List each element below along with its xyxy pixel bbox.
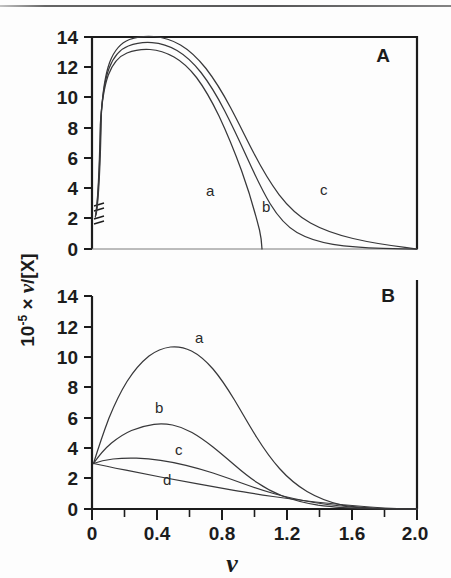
panel-a-y-ticks [84, 37, 92, 249]
panel-a-label-c: c [320, 181, 328, 198]
panel-b: 0 2 4 6 8 10 12 14 [57, 280, 428, 544]
panel-a-curve-a [95, 49, 262, 249]
x-tick-16: 1.6 [339, 523, 365, 544]
y-tick-b-2: 2 [67, 468, 78, 489]
panel-b-label-d: d [163, 471, 171, 488]
x-tick-08: 0.8 [209, 523, 235, 544]
x-tick-0: 0 [87, 523, 98, 544]
panel-b-curve-d [94, 464, 418, 510]
y-tick-b-4: 4 [67, 438, 78, 459]
x-tick-20: 2.0 [402, 523, 428, 544]
x-tick-04: 0.4 [144, 523, 171, 544]
y-tick-b-6: 6 [67, 408, 78, 429]
y-tick-b-0: 0 [67, 499, 78, 520]
panel-b-y-tick-labels: 0 2 4 6 8 10 12 14 [57, 286, 79, 520]
y-axis-base: 10 [17, 326, 38, 347]
panel-a-y-tick-labels: 0 2 4 6 8 10 12 14 [57, 27, 79, 260]
panel-a: 0 2 4 6 8 10 12 14 a b c A [57, 27, 417, 260]
panel-b-letter: B [381, 285, 395, 306]
y-tick-6: 6 [67, 148, 78, 169]
figure-container: 0 2 4 6 8 10 12 14 a b c A [0, 0, 451, 578]
panel-b-curve-a [94, 347, 418, 509]
y-tick-b-12: 12 [57, 317, 78, 338]
y-tick-12: 12 [57, 57, 78, 78]
panel-b-label-a: a [195, 329, 204, 346]
panel-b-curve-c [94, 458, 418, 509]
x-tick-12: 1.2 [274, 523, 300, 544]
y-tick-b-8: 8 [67, 377, 78, 398]
panel-b-label-c: c [175, 441, 183, 458]
panel-b-curve-b [94, 424, 418, 509]
y-tick-2: 2 [67, 208, 78, 229]
panel-a-letter: A [376, 45, 390, 66]
y-tick-4: 4 [67, 178, 78, 199]
y-tick-0: 0 [67, 239, 78, 260]
panel-a-label-a: a [206, 182, 215, 199]
panel-a-label-b: b [262, 198, 270, 215]
panel-a-frame [92, 37, 417, 249]
chart-svg: 0 2 4 6 8 10 12 14 a b c A [0, 0, 451, 578]
y-axis-title: 10-5 × ν/[X] [15, 253, 39, 346]
x-axis-title: ν [226, 549, 238, 578]
y-axis-title-group: 10-5 × ν/[X] [15, 253, 39, 346]
y-axis-times: × [17, 299, 38, 310]
y-tick-b-10: 10 [57, 347, 78, 368]
y-tick-b-14: 14 [57, 286, 79, 307]
y-tick-8: 8 [67, 118, 78, 139]
y-tick-14: 14 [57, 27, 79, 48]
y-axis-tail: /[X] [17, 253, 38, 284]
panel-b-x-tick-labels: 0 0.4 0.8 1.2 1.6 2.0 [87, 523, 429, 544]
y-axis-exponent: -5 [16, 315, 30, 326]
panel-b-label-b: b [155, 399, 163, 416]
panel-b-x-ticks [92, 509, 417, 520]
panel-b-y-ticks [84, 296, 92, 509]
y-tick-10: 10 [57, 87, 78, 108]
